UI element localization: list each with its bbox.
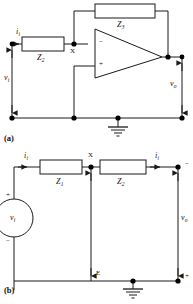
output-return-dot-a	[179, 115, 184, 120]
node-e-label-b: E	[96, 270, 100, 277]
output-current-label-b: ii	[155, 152, 159, 162]
output-negative-sign: +	[185, 273, 189, 280]
output-positive-sign: −	[185, 161, 189, 168]
noninverting-ground-dot-a	[71, 115, 76, 120]
output-voltage-label-a: vo	[170, 80, 177, 90]
output-terminal-dot-b	[175, 164, 180, 169]
opamp-inverting-sign: −	[99, 39, 103, 46]
impedance-z2-box	[100, 160, 146, 174]
opamp-noninverting-sign: +	[99, 61, 103, 68]
source-positive-sign: +	[6, 192, 10, 199]
input-current-label-a: ii	[16, 28, 20, 38]
output-voltage-label-b: vo	[181, 214, 188, 224]
ground-junction-dot-b	[130, 278, 135, 283]
panel-a-group	[9, 4, 184, 136]
panel-a-tag: (a)	[4, 133, 14, 143]
node-x-dot-b	[88, 164, 93, 169]
ground-symbol-a	[108, 118, 128, 136]
input-terminal-dot-a	[10, 42, 15, 47]
output-return-dot-b	[175, 278, 180, 283]
input-impedance-label-a: Z2	[37, 54, 44, 64]
source-voltage-label-b: vi	[10, 214, 15, 224]
circuit-figure: Z3 Z2 X ii vi vo − + (a) Z1 Z2 X E ii ii…	[0, 0, 193, 304]
impedance-z1-box	[40, 160, 82, 174]
node-x-label-a: X	[70, 48, 75, 55]
input-return-dot-a	[9, 115, 14, 120]
node-x-dot-a	[71, 41, 76, 46]
impedance-z2-label: Z2	[117, 178, 124, 188]
circuit-schematic-canvas	[0, 0, 193, 304]
output-terminal-dot-a	[180, 55, 185, 60]
source-negative-sign: −	[6, 238, 10, 245]
opamp-triangle	[95, 29, 162, 78]
panel-b-tag: (b)	[4, 285, 14, 295]
panel-b-group	[0, 160, 181, 298]
input-current-label-b: ii	[24, 152, 28, 162]
ground-junction-dot-a	[115, 115, 120, 120]
impedance-z1-label: Z1	[56, 178, 63, 188]
voltage-source-symbol	[0, 199, 33, 237]
node-x-label-b: X	[88, 152, 93, 159]
output-junction-dot-a	[165, 54, 170, 59]
feedback-impedance-z3-box	[95, 4, 155, 18]
input-impedance-z2-box	[22, 37, 64, 51]
feedback-impedance-label-a: Z3	[117, 21, 124, 31]
input-voltage-label-a: vi	[4, 74, 9, 84]
